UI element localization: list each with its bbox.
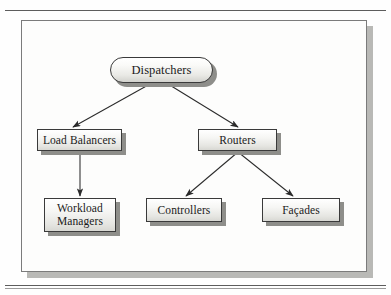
- edge-dispatchers-to-routers: [168, 84, 238, 127]
- node-facades[interactable]: Façades: [262, 198, 340, 222]
- node-label-routers: Routers: [219, 134, 255, 147]
- node-label-controllers: Controllers: [158, 204, 211, 217]
- node-label-dispatchers: Dispatchers: [131, 63, 191, 77]
- node-label-workload-managers: Workload Managers: [57, 202, 103, 228]
- figure-page: DispatchersLoad BalancersRoutersWorkload…: [0, 0, 391, 295]
- node-workload-managers[interactable]: Workload Managers: [44, 198, 116, 232]
- edge-routers-to-facades: [238, 152, 293, 196]
- page-rule-bottom: [5, 285, 386, 286]
- node-dispatchers[interactable]: Dispatchers: [110, 57, 213, 83]
- node-label-facades: Façades: [282, 204, 320, 217]
- edge-dispatchers-to-load-balancers: [73, 84, 150, 127]
- node-label-load-balancers: Load Balancers: [43, 134, 116, 147]
- page-rule-bottom-secondary: [5, 288, 386, 289]
- edge-routers-to-controllers: [186, 152, 238, 196]
- node-load-balancers[interactable]: Load Balancers: [37, 129, 122, 151]
- diagram-canvas: DispatchersLoad BalancersRoutersWorkload…: [0, 0, 391, 295]
- node-routers[interactable]: Routers: [198, 129, 277, 151]
- node-controllers[interactable]: Controllers: [146, 198, 222, 222]
